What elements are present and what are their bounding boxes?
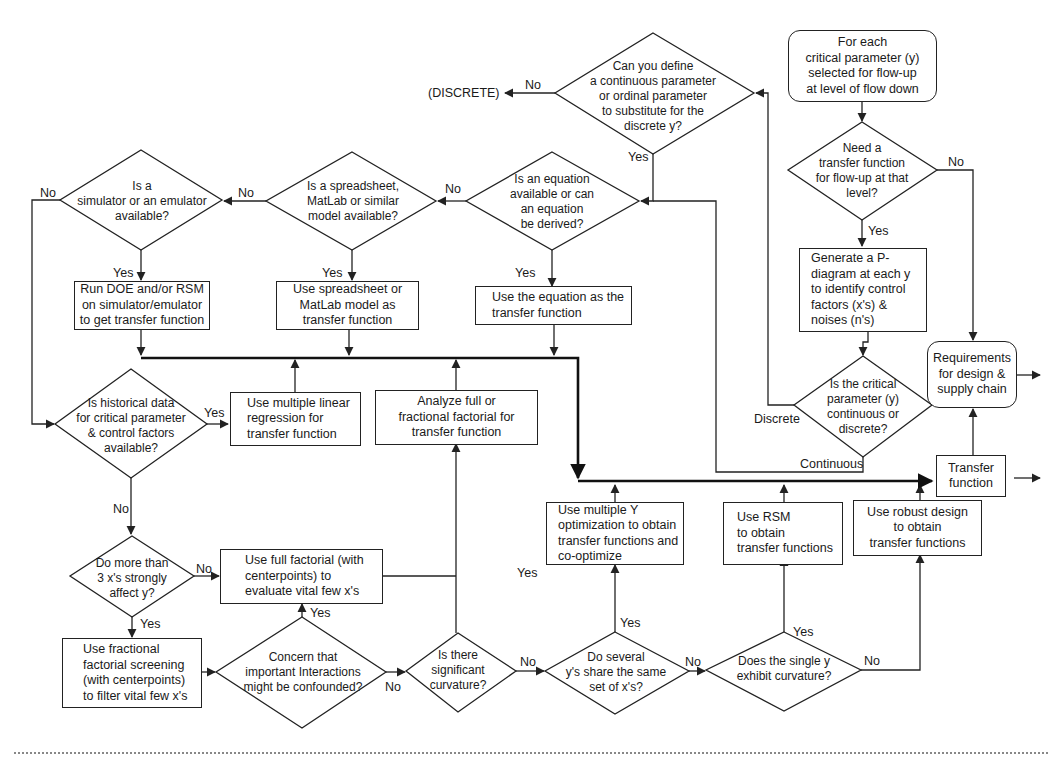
process-requirements: Requirements for design & supply chain xyxy=(927,341,1017,408)
process-run-doe: Run DOE and/or RSM on simulator/emulator… xyxy=(74,281,210,330)
decision-interactions: Concern that important Interactions migh… xyxy=(236,648,370,696)
process-use-spreadsheet: Use spreadsheet or MatLab model as trans… xyxy=(276,281,419,330)
process-regression: Use multiple linear regression for trans… xyxy=(230,392,361,446)
decision-more-than-3: Do more than 3 x's strongly affect y? xyxy=(88,554,176,602)
process-fractional-screening-text: Use fractional factorial screening (with… xyxy=(83,642,188,704)
edge-label-continuous: Continuous xyxy=(800,457,863,471)
edge-label-curvature-yes: Yes xyxy=(517,566,537,580)
process-analyze-factorial-text: Analyze full or fractional factorial for… xyxy=(398,394,514,441)
edge-label-need-tf-no: No xyxy=(948,155,964,169)
start-node-text: For each critical parameter (y) selected… xyxy=(806,35,920,97)
edge-label-interactions-yes: Yes xyxy=(310,606,330,620)
edge-label-several-ys-no: No xyxy=(685,655,701,669)
edge-label-need-tf-yes: Yes xyxy=(868,224,888,238)
decision-historical: Is historical data for critical paramete… xyxy=(66,390,196,462)
edge-label-discrete: Discrete xyxy=(754,412,800,426)
process-requirements-text: Requirements for design & supply chain xyxy=(933,351,1011,398)
decision-equation: Is an equation available or can an equat… xyxy=(488,164,616,240)
edge-label-equation-no: No xyxy=(445,182,461,196)
process-rsm: Use RSM to obtain transfer functions xyxy=(723,502,843,565)
process-rsm-text: Use RSM to obtain transfer functions xyxy=(737,510,833,557)
edge-label-simulator-yes: Yes xyxy=(113,266,133,280)
edge-label-single-y-no: No xyxy=(864,654,880,668)
process-robust-design-text: Use robust design to obtain transfer fun… xyxy=(867,505,968,552)
process-p-diagram: Generate a P- diagram at each y to ident… xyxy=(799,248,927,332)
edge-label-define-no: No xyxy=(525,78,541,92)
process-multiple-y: Use multiple Y optimization to obtain tr… xyxy=(546,502,684,565)
discrete-terminal-label: (DISCRETE) xyxy=(428,86,500,100)
process-full-factorial: Use full factorial (with centerpoints) t… xyxy=(220,549,383,604)
decision-curvature: Is there significant curvature? xyxy=(420,646,496,694)
process-transfer-function-text: Transfer function xyxy=(948,461,994,492)
decision-cont-or-disc: Is the critical parameter (y) continuous… xyxy=(810,368,916,446)
edge-label-spreadsheet-yes: Yes xyxy=(322,266,342,280)
process-analyze-factorial: Analyze full or fractional factorial for… xyxy=(375,390,538,445)
decision-need-tf: Need a transfer function for flow-up at … xyxy=(800,132,924,210)
process-transfer-function: Transfer function xyxy=(936,455,1006,497)
process-use-equation-text: Use the equation as the transfer functio… xyxy=(492,290,624,321)
edge-label-curvature-no: No xyxy=(520,655,536,669)
process-use-spreadsheet-text: Use spreadsheet or MatLab model as trans… xyxy=(293,282,402,329)
edge-label-equation-yes: Yes xyxy=(515,266,535,280)
process-p-diagram-text: Generate a P- diagram at each y to ident… xyxy=(811,251,910,329)
edge-label-define-yes: Yes xyxy=(628,150,648,164)
decision-spreadsheet: Is a spreadsheet, MatLab or similar mode… xyxy=(290,176,416,226)
edge-label-single-y-yes: Yes xyxy=(793,625,813,639)
process-run-doe-text: Run DOE and/or RSM on simulator/emulator… xyxy=(80,282,204,329)
edge-label-simulator-no: No xyxy=(40,186,56,200)
start-node: For each critical parameter (y) selected… xyxy=(788,30,937,102)
edge-label-more-than-3-yes: Yes xyxy=(140,617,160,631)
decision-define-continuous: Can you define a continuous parameter or… xyxy=(575,55,731,137)
edge-label-several-ys-yes: Yes xyxy=(620,616,640,630)
flowchart-canvas: For each critical parameter (y) selected… xyxy=(0,0,1062,763)
page-divider xyxy=(14,752,1048,754)
edge-label-historical-no: No xyxy=(113,502,129,516)
decision-single-y: Does the single y exhibit curvature? xyxy=(722,652,846,686)
edge-label-historical-yes: Yes xyxy=(204,406,224,420)
process-fractional-screening: Use fractional factorial screening (with… xyxy=(62,638,202,708)
decision-several-ys: Do several y's share the same set of x's… xyxy=(560,648,672,696)
process-multiple-y-text: Use multiple Y optimization to obtain tr… xyxy=(558,503,678,565)
edge-label-spreadsheet-no: No xyxy=(238,186,254,200)
decision-simulator: Is a simulator or an emulator available? xyxy=(72,176,212,226)
process-use-equation: Use the equation as the transfer functio… xyxy=(475,286,632,325)
process-full-factorial-text: Use full factorial (with centerpoints) t… xyxy=(245,553,364,600)
edge-label-interactions-no: No xyxy=(385,680,401,694)
process-regression-text: Use multiple linear regression for trans… xyxy=(247,396,350,443)
process-robust-design: Use robust design to obtain transfer fun… xyxy=(853,500,982,556)
edge-label-more-than-3-no: No xyxy=(196,562,212,576)
